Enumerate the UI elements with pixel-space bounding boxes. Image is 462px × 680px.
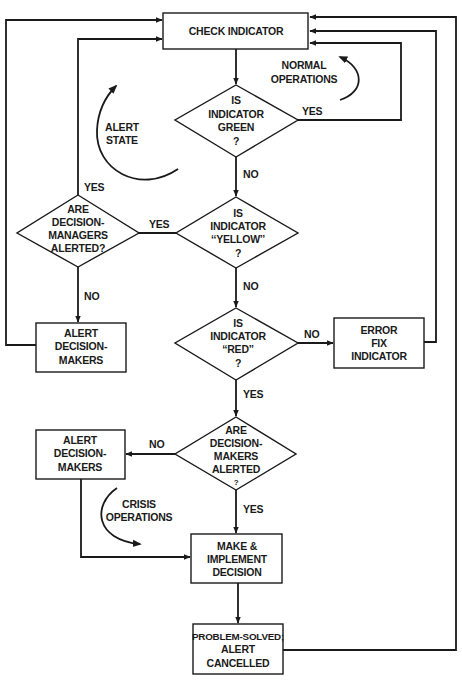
label-yellow-no: NO	[243, 280, 258, 292]
label-green-yes: YES	[302, 105, 323, 117]
node-label: DECISION-	[54, 447, 107, 459]
node-label: ALERT	[64, 327, 99, 339]
node-problem-solved: PROBLEM-SOLVED; ALERT CANCELLED	[192, 624, 284, 674]
node-alert-decision-makers-lower: ALERT DECISION- MAKERS	[36, 430, 125, 479]
node-label: CHECK INDICATOR	[189, 25, 284, 37]
node-label: ‘‘YELLOW’’	[211, 233, 265, 245]
node-label: DECISION	[212, 566, 261, 578]
node-label: FIX	[371, 337, 387, 349]
node-label: MAKERS	[214, 450, 258, 462]
node-label: ALERT	[221, 643, 256, 655]
node-label: MAKERS	[59, 354, 103, 366]
node-label: INDICATOR	[208, 108, 264, 120]
edge-managers-yes	[78, 39, 162, 195]
annotation-normal-operations: OPERATIONS	[271, 73, 338, 85]
node-alert-decision-makers-upper: ALERT DECISION- MAKERS	[36, 323, 126, 372]
node-is-yellow: IS INDICATOR ‘‘YELLOW’’ ?	[176, 197, 298, 268]
node-label: ?	[233, 135, 239, 147]
node-label: ARE	[67, 203, 89, 215]
node-label: MAKERS	[58, 461, 102, 473]
normal-operations-curve-icon	[340, 57, 359, 100]
label-makers-yes: YES	[243, 503, 264, 515]
annotation-alert-state: ALERT	[105, 121, 140, 133]
label-red-yes: YES	[243, 388, 264, 400]
node-label: ALERT	[63, 434, 98, 446]
label-makers-no: NO	[149, 438, 164, 450]
node-label: ERROR	[361, 324, 399, 336]
flowchart-canvas: CHECK INDICATOR IS INDICATOR GREEN ? IS …	[0, 0, 462, 680]
node-label: MAKE &	[217, 540, 258, 552]
node-is-red: IS INDICATOR ‘‘RED’’ ?	[175, 308, 298, 380]
node-label: PROBLEM-SOLVED;	[192, 631, 284, 642]
annotation-crisis-operations: OPERATIONS	[106, 511, 173, 523]
node-label: ?	[235, 247, 241, 259]
node-label: ‘‘RED’’	[222, 343, 254, 355]
node-label: DECISION-	[210, 437, 263, 449]
node-label: MANAGERS	[48, 229, 108, 241]
node-make-implement-decision: MAKE & IMPLEMENT DECISION	[191, 534, 282, 583]
annotation-alert-state: STATE	[106, 134, 138, 146]
label-managers-yes: YES	[84, 181, 105, 193]
node-label: DECISION-	[52, 216, 105, 228]
node-label: CANCELLED	[207, 657, 271, 669]
node-label: ALERTED	[212, 463, 261, 475]
node-label: ARE	[225, 424, 247, 436]
node-label: ?	[234, 478, 239, 487]
node-label: DECISION-	[55, 340, 108, 352]
label-red-no: NO	[304, 328, 319, 340]
annotation-crisis-operations: CRISIS	[122, 498, 156, 510]
node-are-managers-alerted: ARE DECISION- MANAGERS ALERTED?	[17, 195, 139, 267]
node-label: INDICATOR	[210, 220, 266, 232]
label-green-no: NO	[243, 168, 258, 180]
label-managers-no: NO	[84, 290, 99, 302]
node-label: ?	[235, 357, 241, 369]
node-error-fix-indicator: ERROR FIX INDICATOR	[334, 318, 424, 368]
node-is-green: IS INDICATOR GREEN ?	[175, 85, 298, 157]
node-label: IS	[233, 207, 243, 219]
node-label: IS	[231, 94, 241, 106]
node-check-indicator: CHECK INDICATOR	[163, 13, 308, 49]
annotation-normal-operations: NORMAL	[282, 59, 328, 71]
label-yellow-yes: YES	[149, 218, 170, 230]
node-are-makers-alerted: ARE DECISION- MAKERS ALERTED ?	[175, 417, 296, 490]
node-label: IMPLEMENT	[207, 553, 268, 565]
node-label: INDICATOR	[210, 330, 266, 342]
node-label: INDICATOR	[351, 350, 407, 362]
node-label: IS	[233, 317, 243, 329]
node-label: ALERTED?	[51, 242, 105, 254]
node-label: GREEN	[218, 121, 254, 133]
